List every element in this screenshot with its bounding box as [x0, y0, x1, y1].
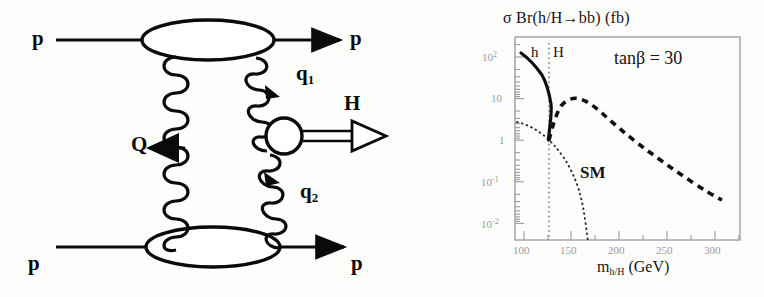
higgs-output-arrow — [302, 121, 386, 151]
label-proton-out-top: p — [350, 28, 362, 49]
x-tick-label-300: 300 — [704, 244, 721, 256]
label-gluon-q2: q2 — [300, 181, 318, 204]
label-proton-out-bottom: p — [351, 253, 363, 274]
proton-blob-bottom — [146, 227, 280, 267]
chart-title: σ Br(h/H→bb) (fb) — [503, 9, 630, 27]
x-tick-label-200: 200 — [608, 244, 625, 256]
x-tick-label-150: 150 — [560, 244, 577, 256]
proton-blob-top — [142, 20, 274, 60]
cross-section-plot-panel: σ Br(h/H→bb) (fb) — [400, 0, 764, 297]
annotation-branch-H: H — [553, 44, 564, 61]
x-axis-ticks — [524, 231, 739, 240]
feynman-diagram-panel: p p p p Q q1 q2 H — [0, 0, 400, 297]
x-tick-label-100: 100 — [513, 244, 530, 256]
annotation-tanbeta: tanβ = 30 — [614, 48, 682, 69]
y-tick-label-1e0: 1 — [499, 134, 505, 146]
figure-root: p p p p Q q1 q2 H σ Br(h/H→bb) (fb) — [0, 0, 764, 297]
annotation-sm-curve-label: SM — [580, 163, 606, 183]
x-tick-label-250: 250 — [656, 244, 673, 256]
y-tick-label-1e1: 10 — [491, 92, 502, 104]
y-axis-ticks — [515, 45, 524, 224]
x-axis-label: mh/H (GeV) — [597, 258, 669, 277]
feynman-diagram-svg — [0, 0, 400, 297]
label-proton-in-top: p — [32, 28, 44, 49]
gluon-q2-arrow — [264, 172, 280, 186]
series-mssm-H-curve — [549, 98, 722, 200]
y-tick-label-1em2: 10-2 — [481, 217, 499, 230]
y-tick-label-1e2: 102 — [482, 50, 497, 63]
gluon-Q-coil — [164, 57, 188, 251]
higgs-vertex-blob — [266, 118, 302, 154]
series-sm-higgs-curve — [517, 122, 588, 243]
label-gluon-Q: Q — [131, 134, 147, 155]
annotation-branch-h: h — [531, 44, 539, 61]
y-tick-label-1em1: 10-1 — [481, 175, 499, 188]
label-gluon-q1: q1 — [296, 63, 314, 86]
gluon-q1-arrow — [265, 85, 280, 99]
series-mssm-h-curve — [521, 53, 551, 140]
label-proton-in-bottom: p — [28, 253, 40, 274]
label-higgs: H — [344, 93, 360, 114]
